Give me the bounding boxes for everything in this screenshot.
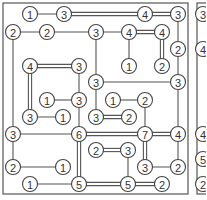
island-value: 4 [175,129,181,141]
island-value: 2 [175,44,181,56]
island-value: 4 [200,129,206,141]
island[interactable]: 3 [89,75,104,90]
island-value: 5 [76,179,82,191]
island-value: 2 [200,179,206,191]
island[interactable]: 2 [138,93,153,108]
island[interactable]: 3 [57,7,72,22]
island[interactable]: 3 [23,110,38,125]
island-value: 1 [60,162,66,174]
island[interactable]: 4 [196,127,207,142]
island[interactable]: 4 [155,25,170,40]
island[interactable]: 1 [23,177,38,192]
island[interactable]: 3 [72,93,87,108]
island-value: 2 [142,95,148,107]
island[interactable]: 4 [196,42,207,57]
island[interactable]: 3 [89,25,104,40]
island[interactable]: 1 [23,7,38,22]
island-value: 4 [142,9,148,21]
island-value: 1 [44,95,50,107]
island-value: 3 [93,112,99,124]
island-value: 3 [93,77,99,89]
island[interactable]: 2 [171,42,186,57]
island[interactable]: 4 [171,127,186,142]
island-value: 4 [200,44,206,56]
island[interactable]: 4 [122,25,137,40]
island[interactable]: 2 [155,59,170,74]
island[interactable]: 5 [72,177,87,192]
island[interactable]: 1 [56,110,71,125]
island-value: 3 [200,9,206,21]
island-value: 3 [76,61,82,73]
island-value: 3 [175,9,181,21]
island[interactable]: 2 [122,110,137,125]
island[interactable]: 3 [138,160,153,175]
island-value: 2 [10,27,16,39]
island[interactable]: 3 [171,7,186,22]
island-value: 2 [175,162,181,174]
puzzle-board: 13432234424312331312313236742321321552 3… [0,0,206,200]
island-value: 3 [93,27,99,39]
island-value: 5 [200,154,206,166]
island[interactable]: 2 [6,25,21,40]
island[interactable]: 5 [121,177,136,192]
island[interactable]: 4 [23,59,38,74]
island-value: 3 [125,145,131,157]
island[interactable]: 4 [138,7,153,22]
island[interactable]: 2 [89,143,104,158]
island[interactable]: 6 [72,127,87,142]
island-value: 2 [159,61,165,73]
island-value: 2 [10,162,16,174]
island-value: 7 [142,129,148,141]
island-value: 2 [126,112,132,124]
island-value: 3 [175,77,181,89]
island-value: 3 [10,129,16,141]
island[interactable]: 3 [121,143,136,158]
island-value: 2 [159,179,165,191]
island[interactable]: 3 [6,127,21,142]
island[interactable]: 2 [155,177,170,192]
island[interactable]: 3 [89,110,104,125]
island[interactable]: 7 [138,127,153,142]
island[interactable]: 1 [40,93,55,108]
island[interactable]: 1 [106,93,121,108]
island-value: 1 [27,179,33,191]
island[interactable]: 2 [40,25,55,40]
island-value: 4 [126,27,132,39]
island-value: 2 [93,145,99,157]
island-value: 1 [126,61,132,73]
island[interactable]: 1 [122,59,137,74]
island-value: 6 [76,129,82,141]
island-value: 1 [110,95,116,107]
island[interactable]: 2 [171,160,186,175]
island-value: 3 [61,9,67,21]
island[interactable]: 2 [196,177,207,192]
island-value: 4 [159,27,165,39]
island-value: 1 [60,112,66,124]
island[interactable]: 3 [171,75,186,90]
island-value: 3 [27,112,33,124]
island-value: 3 [142,162,148,174]
island[interactable]: 5 [196,152,207,167]
island-value: 5 [125,179,131,191]
island[interactable]: 1 [56,160,71,175]
island-value: 1 [27,9,33,21]
island-value: 3 [76,95,82,107]
island[interactable]: 3 [72,59,87,74]
island[interactable]: 2 [6,160,21,175]
island-value: 4 [27,61,33,73]
island-value: 2 [44,27,50,39]
island[interactable]: 3 [196,7,207,22]
